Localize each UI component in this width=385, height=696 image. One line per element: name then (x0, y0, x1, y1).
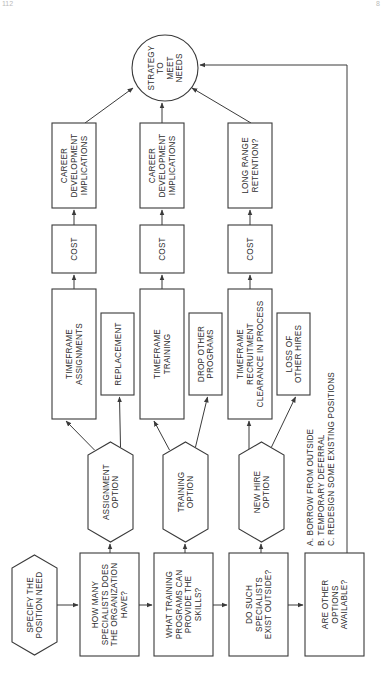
other-option-item: B. TEMPORARY DEFERRAL (317, 434, 326, 546)
assignment-cost-box-label-line: COST (70, 237, 79, 261)
new-hire-side-box-label-line: LOSS OF (285, 336, 294, 373)
nodes: STRATEGYTOMEETNEEDSCAREERDEVELOPMENTIMPL… (12, 35, 364, 656)
training-outcome-box-label-line: IMPLICATIONS (168, 135, 177, 195)
new-hire-outcome-box-label-line: LONG RANGE (241, 137, 250, 194)
question-q2-box-label-line: PROVIDE THE (184, 575, 193, 633)
goal-strategy-label-line: NEEDS (175, 53, 184, 83)
training-side-box-label: DROP OTHERPROGRAMS (197, 326, 216, 382)
training-option-hexagon-label-line: OPTION (186, 476, 195, 509)
training-outcome-box-label-line: CAREER (148, 148, 157, 183)
assignment-to-goal-arrow (85, 88, 133, 123)
assignment-option-hexagon-label-line: ASSIGNMENT (102, 464, 111, 520)
question-q4-box-label-line: ARE OTHER (321, 580, 330, 630)
training-to-side-arrow (196, 397, 208, 447)
question-q1-box-label-line: HAVE? (120, 591, 129, 618)
new-hire-option-hexagon-label-line: OPTION (262, 476, 271, 509)
training-option-hexagon-label-line: TRAINING (177, 472, 186, 513)
training-timeframe-box-label-line: TIMEFRAME (153, 329, 162, 379)
flowchart-diagram: STRATEGYTOMEETNEEDSCAREERDEVELOPMENTIMPL… (0, 0, 385, 696)
question-q2-box-label-line: WHAT TRAINING (165, 571, 174, 638)
question-q1-box-label-line: HOW MANY (91, 580, 100, 628)
training-outcome-box-label-line: DEVELOPMENT (158, 133, 167, 197)
goal-strategy-label-line: MEET (166, 56, 175, 80)
new-hire-option-hexagon-label: NEW HIREOPTION (253, 470, 272, 513)
new-hire-to-goal-arrow (192, 88, 251, 123)
assignment-side-box-label: REPLACEMENT (114, 322, 123, 386)
training-timeframe-box-label-line: TRAINING (163, 334, 172, 375)
question-q1-box-label-line: THE ORGANIZATION (110, 563, 119, 647)
training-cost-box-label-line: COST (158, 237, 167, 261)
new-hire-to-side-arrow (272, 397, 296, 447)
question-q4-box-label-line: OPTIONS (331, 585, 340, 624)
goal-strategy-label-line: STRATEGY (147, 45, 156, 90)
start-specify-need-hexagon-label-line: SPECIFY THE (26, 577, 35, 633)
other-option-item: C. REDESIGN SOME EXISTING POSITIONS (327, 372, 336, 546)
training-side-box-label-line: PROGRAMS (206, 329, 215, 379)
new-hire-timeframe-box-label-line: CLEARANCE IN PROCESS (256, 300, 265, 407)
start-specify-need-hexagon-label-line: POSITION NEED (35, 572, 44, 639)
new-hire-side-box-label-line: OTHER HIRES (294, 325, 303, 383)
other-options-list: A. BORROW FROM OUTSIDEB. TEMPORARY DEFER… (306, 372, 336, 546)
question-q2-box-label-line: SKILLS? (194, 587, 203, 621)
new-hire-cost-box-label: COST (246, 237, 255, 261)
assignment-to-timeframe-arrow (66, 421, 95, 450)
start-specify-need-hexagon-label: SPECIFY THEPOSITION NEED (26, 572, 45, 639)
new-hire-outcome-box-label-line: RETENTION? (251, 138, 260, 192)
training-side-box-label-line: DROP OTHER (197, 326, 206, 382)
assignment-outcome-box-label-line: DEVELOPMENT (70, 133, 79, 197)
question-q4-box-label: ARE OTHEROPTIONSAVAILABLE? (321, 580, 349, 630)
question-q2-box-label-line: PROGRAMS CAN (175, 570, 184, 640)
training-option-hexagon-label: TRAININGOPTION (177, 472, 196, 513)
new-hire-cost-box-label-line: COST (246, 237, 255, 261)
new-hire-timeframe-box-label-line: RECRUITMENT (246, 323, 255, 385)
new-hire-option-hexagon-label-line: NEW HIRE (253, 470, 262, 513)
question-q1-box-label-line: SPECIALISTS DOES (101, 563, 110, 645)
assignment-outcome-box-label-line: CAREER (60, 148, 69, 183)
training-to-timeframe-arrow (154, 421, 170, 450)
training-timeframe-box-label: TIMEFRAMETRAINING (153, 329, 172, 379)
question-q3-box-label-line: SPECIALISTS (255, 577, 264, 632)
training-cost-box-label: COST (158, 237, 167, 261)
question-q3-box-label-line: EXIST OUTSIDE? (264, 569, 273, 639)
assignment-timeframe-box-label-line: TIMEFRAME (65, 329, 74, 379)
new-hire-timeframe-box-label-line: TIMEFRAME (236, 329, 245, 379)
assignment-to-side-arrow (120, 397, 121, 447)
assignment-option-hexagon-label-line: OPTION (111, 476, 120, 509)
assignment-side-box-label-line: REPLACEMENT (114, 322, 123, 386)
question-q3-box-label-line: DO SUCH (245, 585, 254, 624)
new-hire-outcome-box-label: LONG RANGERETENTION? (241, 137, 260, 194)
question-q4-box-label-line: AVAILABLE? (340, 580, 349, 630)
assignment-outcome-box-label-line: IMPLICATIONS (80, 135, 89, 195)
goal-strategy-label-line: TO (156, 62, 165, 74)
assignment-timeframe-box-label: TIMEFRAMEASSIGNMENTS (65, 323, 84, 385)
assignment-cost-box-label: COST (70, 237, 79, 261)
assignment-timeframe-box-label-line: ASSIGNMENTS (75, 323, 84, 385)
other-option-item: A. BORROW FROM OUTSIDE (306, 428, 315, 546)
